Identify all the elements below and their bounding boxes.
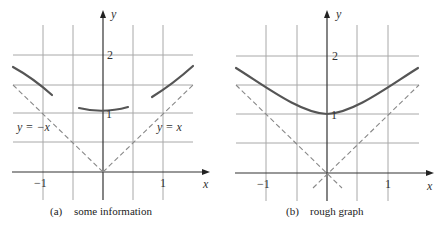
caption-text-a: some information: [74, 205, 152, 217]
tick-y-2-a: 2: [107, 48, 113, 62]
tick-y-1-a: 1: [106, 107, 112, 121]
x-axis-label-a: x: [202, 177, 209, 191]
tick-y-2-b: 2: [332, 49, 338, 63]
y-axis-label-a: y: [110, 7, 117, 21]
tick-x-neg1-a: −1: [34, 176, 47, 190]
tick-x-1-a: 1: [160, 176, 166, 190]
x-axis-arrow-b: [426, 170, 434, 176]
annotation-y-x: y = x: [156, 120, 182, 134]
panel-b: y x 2 1 −1 1 (b) rough graph: [235, 7, 434, 218]
y-axis-arrow-a: [100, 10, 106, 18]
caption-text-b: rough graph: [310, 205, 364, 217]
tick-x-neg1-b: −1: [257, 177, 270, 191]
annotation-y-neg-x: y = −x: [16, 120, 51, 134]
x-axis-arrow-a: [202, 169, 210, 175]
figure: y x 2 1 −1 1 y = −x y = x (a) some infor…: [0, 0, 443, 228]
panel-a: y x 2 1 −1 1 y = −x y = x (a) some infor…: [12, 7, 210, 218]
x-axis-label-b: x: [426, 179, 433, 193]
caption-tag-a: (a): [50, 205, 63, 218]
tick-x-1-b: 1: [385, 177, 391, 191]
tick-y-1-b: 1: [331, 108, 337, 122]
y-axis-label-b: y: [335, 7, 342, 21]
caption-tag-b: (b): [286, 205, 299, 218]
y-axis-arrow-b: [324, 10, 330, 18]
